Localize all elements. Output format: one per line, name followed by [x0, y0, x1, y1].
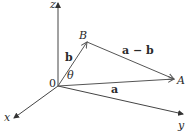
angle-theta-label: θ	[67, 69, 74, 82]
point-b-label: B	[78, 29, 87, 42]
x-axis-label: x	[4, 111, 11, 124]
vector-diagram: z x y 0 B A b a a − b θ	[0, 0, 188, 137]
vector-a-minus-b-label: a − b	[122, 44, 154, 57]
y-axis-label: y	[177, 119, 185, 132]
origin-label: 0	[49, 77, 56, 90]
x-axis	[14, 86, 58, 118]
y-axis	[58, 86, 183, 114]
point-a-label: A	[176, 74, 185, 87]
vector-a-label: a	[111, 83, 118, 96]
z-axis-label: z	[49, 0, 56, 11]
vector-b-label: b	[65, 51, 73, 64]
